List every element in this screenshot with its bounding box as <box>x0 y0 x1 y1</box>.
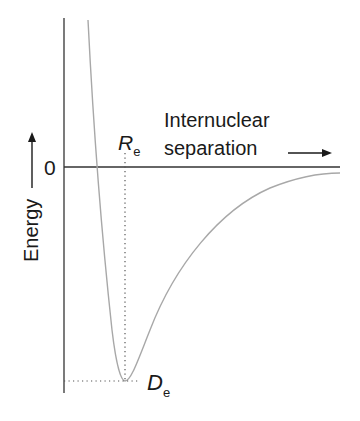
x-axis-label-line1: Internuclear <box>164 109 270 131</box>
re-symbol: R <box>118 131 133 154</box>
de-symbol: D <box>147 370 163 395</box>
potential-curve <box>88 20 340 381</box>
right-arrow-icon <box>288 149 332 157</box>
potential-energy-diagram: 0 Energy Re Internuclear separation De <box>0 0 360 421</box>
energy-label: Energy <box>20 199 42 262</box>
re-label: Re <box>118 131 140 159</box>
energy-axis-label-group: Energy <box>20 199 42 262</box>
x-axis-label-line2: separation <box>164 137 257 159</box>
re-subscript: e <box>133 144 140 159</box>
de-label: De <box>147 370 170 400</box>
up-arrow-icon <box>28 132 36 188</box>
de-subscript: e <box>163 385 170 400</box>
zero-label: 0 <box>44 156 56 179</box>
